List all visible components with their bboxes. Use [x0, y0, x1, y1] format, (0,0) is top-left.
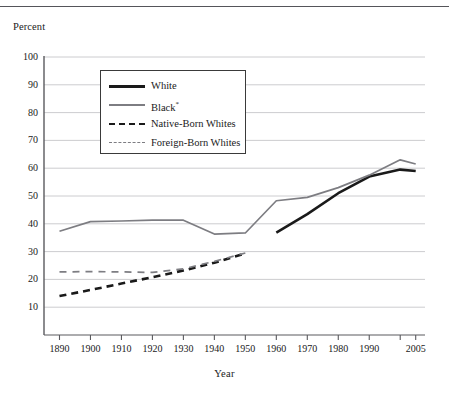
chart-legend: WhiteBlack*Native-Born WhitesForeign-Bor…	[100, 70, 246, 154]
y-tick-label: 90	[4, 80, 38, 90]
x-axis-title: Year	[0, 368, 449, 379]
legend-label: Black*	[151, 98, 179, 114]
y-tick-label: 70	[4, 135, 38, 145]
legend-line-swatch	[109, 85, 145, 88]
legend-line-swatch	[109, 104, 145, 106]
y-tick-label: 10	[4, 302, 38, 312]
y-tick-label: 20	[4, 274, 38, 284]
legend-item: Foreign-Born Whites	[109, 134, 245, 152]
legend-item: White	[109, 77, 245, 95]
series-line	[59, 160, 415, 234]
legend-item: Native-Born Whites	[109, 115, 245, 133]
legend-line-swatch	[109, 123, 145, 125]
legend-label: Native-Born Whites	[151, 117, 236, 130]
legend-item: Black*	[109, 96, 245, 114]
series-line	[276, 170, 415, 233]
legend-footnote-marker: *	[176, 100, 180, 108]
x-tick-label: 1990	[347, 344, 391, 354]
y-tick-label: 30	[4, 247, 38, 257]
y-tick-label: 50	[4, 191, 38, 201]
x-tick-label: 2005	[394, 344, 438, 354]
legend-label: Foreign-Born Whites	[151, 136, 240, 149]
y-tick-label: 60	[4, 163, 38, 173]
y-tick-label: 40	[4, 219, 38, 229]
y-tick-label: 80	[4, 108, 38, 118]
legend-label: White	[151, 79, 177, 92]
line-chart-canvas	[0, 0, 449, 402]
legend-line-swatch	[109, 142, 145, 143]
y-tick-label: 100	[4, 52, 38, 62]
figure-container: Percent 102030405060708090100 1890190019…	[0, 0, 449, 402]
